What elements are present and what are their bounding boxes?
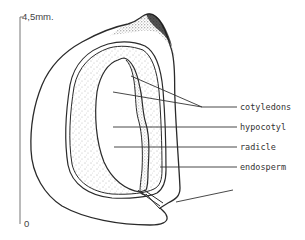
label-radicle: radicle bbox=[240, 142, 276, 152]
scale-bar bbox=[20, 17, 23, 224]
scale-top-label: 4,5mm. bbox=[22, 12, 54, 22]
seed-diagram bbox=[0, 0, 305, 240]
label-hypocotyl: hypocotyl bbox=[240, 122, 286, 132]
scale-bottom-label: 0 bbox=[24, 219, 29, 229]
label-cotyledons: cotyledons bbox=[240, 102, 291, 112]
label-endosperm: endosperm bbox=[240, 162, 286, 172]
